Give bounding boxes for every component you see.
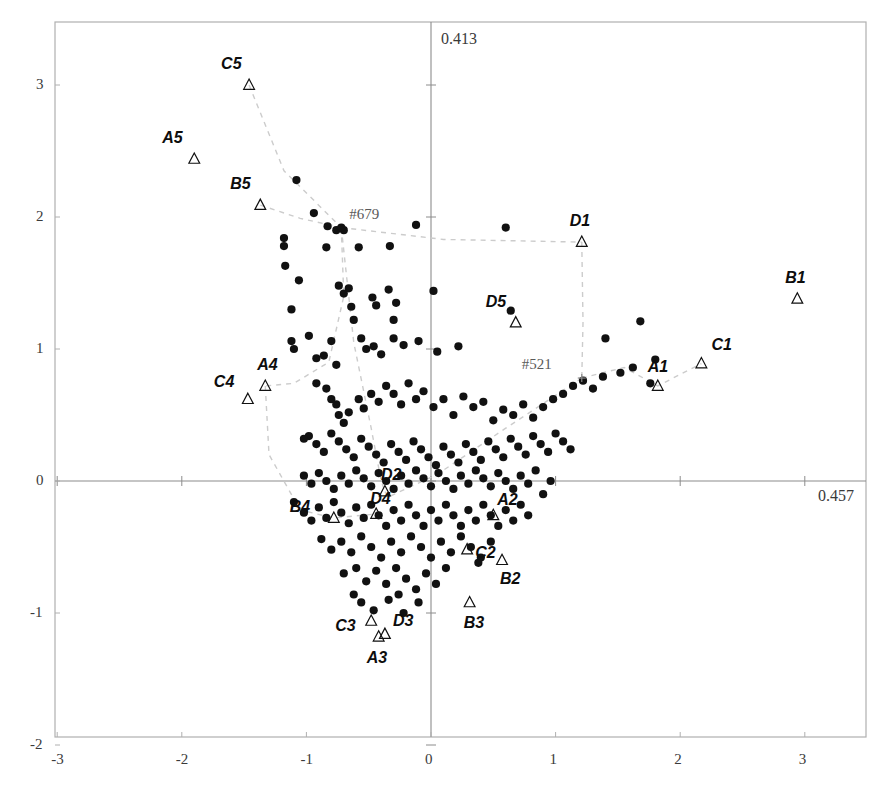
group-label-c4: C4 [214, 373, 234, 391]
group-label-c5: C5 [221, 55, 241, 73]
y-tick-label: 3 [36, 76, 44, 93]
group-label-d5: D5 [486, 293, 506, 311]
plot-canvas [0, 0, 883, 788]
x-tick-label: -2 [176, 751, 189, 768]
group-label-d2: D2 [381, 466, 401, 484]
group-label-c2: C2 [475, 544, 495, 562]
x-tick-label: 3 [799, 751, 807, 768]
group-label-b3: B3 [464, 614, 484, 632]
group-label-d3: D3 [393, 612, 413, 630]
y-tick-label: 0 [36, 472, 44, 489]
group-label-b5: B5 [230, 175, 250, 193]
group-label-b4: B4 [290, 498, 310, 516]
data-points [280, 176, 660, 617]
node-label-521: #521 [522, 356, 552, 373]
y-tick-label: -2 [30, 736, 43, 753]
horizontal-axis-value: 0.457 [818, 487, 854, 505]
axis-ticks [55, 85, 805, 745]
y-tick-label: -1 [30, 604, 43, 621]
group-label-a4: A4 [257, 356, 277, 374]
scatter-plot-figure: -3-2-101233210-1-2C5A5B5D1B1D5C1A1A4C4D2… [0, 0, 883, 788]
x-tick-label: -1 [300, 751, 313, 768]
group-label-c1: C1 [711, 336, 731, 354]
y-tick-label: 2 [36, 208, 44, 225]
group-label-a2: A2 [497, 491, 517, 509]
node-label-679: #679 [349, 206, 379, 223]
x-tick-label: 2 [674, 751, 682, 768]
vertical-axis-value: 0.413 [441, 30, 477, 48]
group-label-a3: A3 [367, 649, 387, 667]
group-label-d4: D4 [370, 490, 390, 508]
group-label-a5: A5 [162, 129, 182, 147]
y-tick-label: 1 [36, 340, 44, 357]
group-label-a1: A1 [648, 358, 668, 376]
x-tick-label: 0 [425, 751, 433, 768]
group-label-c3: C3 [335, 617, 355, 635]
x-tick-label: 1 [550, 751, 558, 768]
group-label-b1: B1 [785, 269, 805, 287]
group-label-d1: D1 [570, 212, 590, 230]
x-tick-label: -3 [51, 751, 64, 768]
group-label-b2: B2 [500, 570, 520, 588]
